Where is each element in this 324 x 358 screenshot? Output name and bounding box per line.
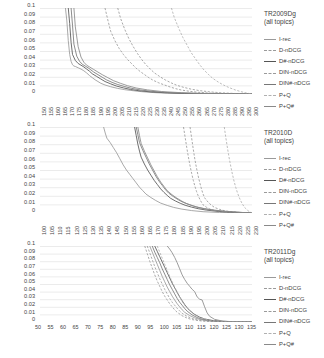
x-tick-label: 50 [35,325,41,330]
x-tick-label: 160 [56,107,61,116]
x-tick-label: 240 [169,107,174,116]
y-axis-labels: 0.10.090.080.070.060.050.040.030.020.010 [0,124,38,216]
legend-item-4: DIN#-nDCG [264,317,310,328]
x-tick-label: 245 [176,107,181,116]
legend-label: D#-nDCG [279,59,304,65]
legend-swatch-icon [264,95,276,96]
legend-item-1: D-nDCG [264,164,310,175]
legend-swatch-icon [264,180,276,181]
legend-label: D#-nDCG [279,178,304,184]
x-tick-label: 125 [222,325,231,330]
x-tick-label: 165 [63,107,68,116]
legend-swatch-icon [264,106,276,107]
x-tick-label: 105 [50,226,55,235]
legend-label: P+Q# [279,104,294,110]
x-tick-label: 190 [189,226,194,235]
x-tick-label: 165 [148,226,153,235]
y-tick-label: 0.08 [24,139,38,145]
legend-item-0: I-rec [264,34,310,45]
legend-item-0: I-rec [264,153,310,164]
x-tick-label: 85 [122,325,128,330]
legend-item-2: D#-nDCG [264,175,310,186]
legend-swatch-icon [264,73,276,74]
legend: I-recD-nDCGD#-nDCGDIN-nDCGDIN#-nDCGP+QP+… [264,153,310,231]
x-tick-label: 170 [70,107,75,116]
legend-swatch-icon [264,299,276,300]
x-tick-label: 230 [155,107,160,116]
panel-title-text: TR2010D [264,129,294,137]
x-tick-label: 185 [91,107,96,116]
legend-swatch-icon [264,169,276,170]
x-tick-label: 160 [140,226,145,235]
x-tick-label: 290 [240,107,245,116]
series-line [71,8,252,94]
series-line [65,8,252,94]
y-axis-labels: 0.10.090.080.070.060.050.040.030.020.010 [0,5,38,97]
y-tick-label: 0.06 [24,272,38,278]
series-line [147,246,252,322]
series-line [145,246,252,322]
legend-swatch-icon [264,203,276,204]
y-tick-label: 0.08 [24,20,38,26]
x-tick-label: 100 [160,325,169,330]
chart-panel-2: 0.10.090.080.070.060.050.040.030.020.010… [0,119,324,238]
legend-swatch-icon [264,158,276,159]
y-tick-label: 0.04 [24,55,38,61]
legend-item-2: D#-nDCG [264,56,310,67]
panel-title: TR2009Dg(all topics) [264,10,296,27]
x-tick-label: 105 [172,325,181,330]
x-tick-label: 140 [107,226,112,235]
x-tick-label: 265 [205,107,210,116]
x-tick-label: 120 [210,325,219,330]
y-tick-label: 0.09 [24,131,38,137]
y-tick-label: 0.04 [24,287,38,293]
legend-item-5: P+Q [264,328,310,339]
y-tick-label: 0.02 [24,302,38,308]
x-tick-label: 135 [99,226,104,235]
y-tick-label: 0.1 [27,122,38,128]
x-tick-label: 110 [185,325,194,330]
x-tick-label: 255 [190,107,195,116]
x-tick-label: 205 [120,107,125,116]
y-tick-label: 0.02 [24,191,38,197]
x-tick-label: 200 [113,107,118,116]
y-tick-label: 0.01 [24,310,38,316]
x-tick-label: 90 [135,325,141,330]
series-line [118,8,252,94]
x-tick-label: 185 [181,226,186,235]
panel-subtitle-text: (all topics) [264,256,295,264]
legend-label: P+Q [279,212,291,218]
x-tick-label: 220 [238,226,243,235]
x-tick-label: 230 [254,226,259,235]
legend-item-2: D#-nDCG [264,294,310,305]
y-tick-label: 0.07 [24,29,38,35]
legend-label: P+Q [279,93,291,99]
x-tick-label: 130 [91,226,96,235]
y-tick-label: 0.09 [24,12,38,18]
legend-label: DIN-nDCG [279,189,307,195]
y-tick-label: 0 [32,89,38,95]
legend-item-6: P+Q# [264,339,310,350]
legend-label: I-rec [279,275,291,281]
x-tick-label: 180 [172,226,177,235]
legend-item-4: DIN#-nDCG [264,198,310,209]
legend-swatch-icon [264,84,276,85]
x-tick-label: 60 [60,325,66,330]
x-tick-label: 295 [247,107,252,116]
figure-root: 0.10.090.080.070.060.050.040.030.020.010… [0,0,324,357]
x-tick-label: 175 [164,226,169,235]
y-tick-label: 0.01 [24,200,38,206]
y-tick-label: 0.05 [24,279,38,285]
x-tick-label: 300 [254,107,259,116]
x-tick-label: 125 [83,226,88,235]
x-tick-label: 195 [106,107,111,116]
panel-title-text: TR2009Dg [264,10,296,18]
series-line [171,8,252,94]
x-tick-label: 115 [197,325,206,330]
x-tick-label: 80 [110,325,116,330]
x-tick-label: 210 [221,226,226,235]
series-line [68,8,252,94]
x-tick-label: 180 [84,107,89,116]
x-tick-label: 205 [213,226,218,235]
panel-title-text: TR2011Dg [264,248,295,256]
